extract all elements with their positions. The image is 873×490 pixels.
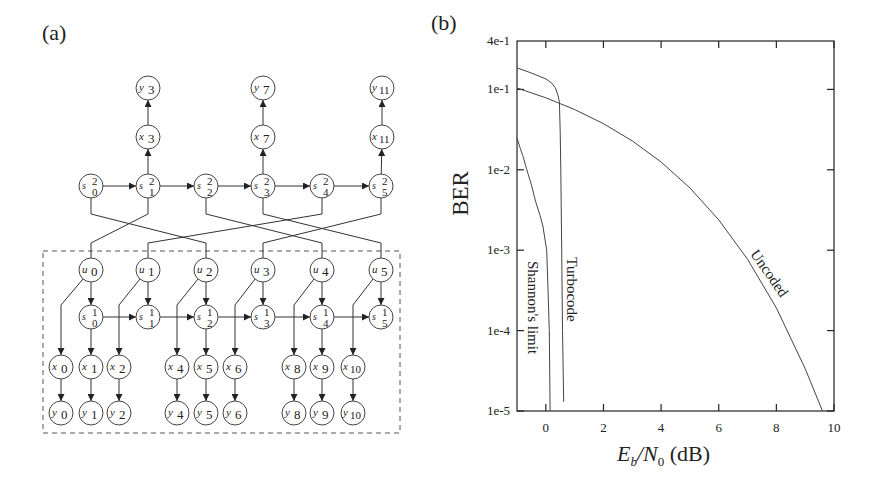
node-subscript: 3	[148, 82, 155, 97]
node-subscript: 0	[92, 186, 98, 198]
node-subscript: 11	[379, 84, 390, 96]
node-label: s	[139, 180, 143, 191]
node-subscript: 0	[91, 264, 98, 279]
interleaver-edge-u1-s2_4	[148, 174, 322, 258]
node-subscript: 5	[206, 407, 213, 422]
node-label: x	[51, 360, 57, 372]
node-subscript: 6	[235, 407, 242, 422]
node-subscript: 5	[382, 186, 388, 198]
node-subscript: 1	[149, 317, 155, 329]
y-axis-title: BER	[449, 171, 472, 216]
node-subscript: 0	[61, 361, 68, 376]
node-s1_2: s12	[194, 305, 218, 329]
node-subscript: 4	[177, 407, 184, 422]
node-label: u	[313, 263, 319, 275]
node-s1_1: s11	[136, 305, 160, 329]
node-subscript: 1	[91, 361, 98, 376]
y-tick-label: 1e-2	[470, 163, 510, 176]
node-label: y	[196, 406, 202, 418]
node-x4: x4	[165, 355, 189, 379]
node-u3: u3	[251, 258, 275, 282]
node-y4: y4	[165, 401, 189, 425]
node-label: u	[372, 263, 378, 275]
node-s2_4: s24	[310, 174, 334, 198]
x-tick-label: 8	[761, 421, 791, 434]
node-x1: x1	[79, 355, 103, 379]
node-s1_4: s14	[310, 305, 334, 329]
node-label: x	[138, 130, 144, 142]
node-y0: y0	[49, 401, 73, 425]
node-s2_1: s21	[136, 174, 160, 198]
node-y6: y6	[223, 401, 247, 425]
node-label: y	[109, 406, 115, 418]
shannon-limit-label: Shannon's limit	[525, 261, 540, 354]
node-subscript: 10	[350, 409, 362, 421]
y-tick-label: 1e-4	[470, 324, 510, 337]
node-label: u	[139, 263, 145, 275]
node-subscript: 1	[91, 407, 98, 422]
node-subscript: 5	[381, 264, 388, 279]
node-label: s	[82, 311, 86, 322]
node-subscript: 2	[119, 407, 126, 422]
node-label: y	[81, 406, 87, 418]
node-subscript: 8	[294, 361, 301, 376]
node-x7: x7	[251, 125, 275, 149]
node-u2: u2	[194, 258, 218, 282]
node-subscript: 2	[119, 361, 126, 376]
node-label: s	[372, 311, 376, 322]
x-tick-label: 2	[588, 421, 618, 434]
node-y11: y11	[370, 76, 394, 100]
node-x10: x10	[341, 355, 365, 379]
node-s2_2: s22	[194, 174, 218, 198]
node-subscript: 7	[263, 82, 270, 97]
node-y1: y1	[79, 401, 103, 425]
x-tick-label: 6	[704, 421, 734, 434]
figure-canvas: y3y7y11x3x7x11s20s21s22s23s24s25u0u1u2u3…	[0, 0, 873, 490]
x-tick-label: 10	[819, 421, 849, 434]
node-u5: u5	[369, 258, 393, 282]
node-label: x	[225, 360, 231, 372]
y-tick-label: 1e-3	[470, 243, 510, 256]
node-label: y	[225, 406, 231, 418]
node-label: s	[372, 180, 376, 191]
node-subscript: 0	[61, 407, 68, 422]
node-x8: x8	[282, 355, 306, 379]
node-x11: x11	[370, 125, 394, 149]
node-label: u	[197, 263, 203, 275]
node-y3: y3	[136, 76, 160, 100]
node-subscript: 3	[264, 317, 270, 329]
node-label: s	[254, 180, 258, 191]
node-u4: u4	[310, 258, 334, 282]
node-subscript: 10	[350, 363, 362, 375]
node-label: y	[253, 81, 259, 93]
node-label: x	[312, 360, 318, 372]
node-label: s	[313, 180, 317, 191]
panel-label-a: (a)	[42, 22, 66, 44]
y-tick-label: 1e-5	[470, 404, 510, 417]
node-subscript: 5	[382, 317, 388, 329]
node-x3: x3	[136, 125, 160, 149]
node-label: x	[167, 360, 173, 372]
node-label: x	[109, 360, 115, 372]
node-subscript: 5	[206, 361, 213, 376]
node-label: x	[371, 130, 377, 142]
node-y7: y7	[251, 76, 275, 100]
turbocode-label: Turbocode	[564, 257, 579, 321]
turbo-code-factor-graph: y3y7y11x3x7x11s20s21s22s23s24s25u0u1u2u3…	[43, 76, 400, 433]
node-x6: x6	[223, 355, 247, 379]
node-label: u	[254, 263, 260, 275]
node-y2: y2	[107, 401, 131, 425]
node-y8: y8	[282, 401, 306, 425]
ber-chart	[517, 41, 834, 411]
node-subscript: 1	[148, 264, 155, 279]
node-label: x	[342, 360, 348, 372]
node-subscript: 9	[322, 407, 329, 422]
y-tick-label: 4e-1	[470, 34, 510, 47]
node-label: s	[313, 311, 317, 322]
chart-curves	[517, 68, 823, 411]
node-y5: y5	[194, 401, 218, 425]
node-subscript: 8	[294, 407, 301, 422]
node-label: s	[82, 180, 86, 191]
node-s2_0: s20	[79, 174, 103, 198]
node-subscript: 4	[177, 361, 184, 376]
